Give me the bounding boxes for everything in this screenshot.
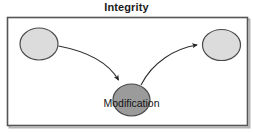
- integrity-figure: Integrity Modification: [0, 0, 253, 133]
- integrity-diagram: Modification: [0, 0, 253, 133]
- node-modification-label: Modification: [103, 97, 159, 109]
- node-destination[interactable]: [203, 30, 241, 61]
- node-source[interactable]: [20, 28, 58, 60]
